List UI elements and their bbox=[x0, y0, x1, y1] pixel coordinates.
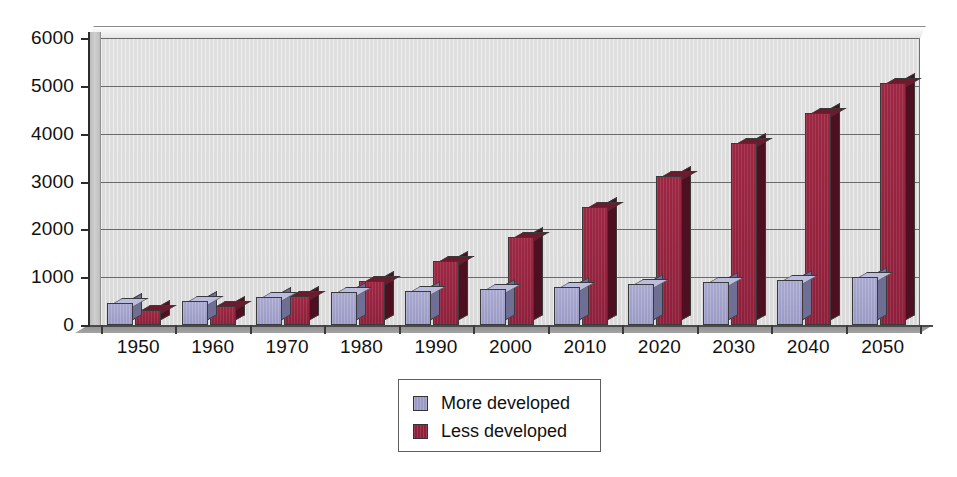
x-tick-mark bbox=[846, 325, 848, 334]
x-axis-label-2010: 2010 bbox=[548, 336, 622, 358]
x-axis-label-2050: 2050 bbox=[846, 336, 920, 358]
legend-swatch-more-developed-icon bbox=[413, 396, 428, 411]
bar-side-face bbox=[757, 133, 766, 320]
x-tick-mark bbox=[771, 325, 773, 334]
x-axis-label-1980: 1980 bbox=[324, 336, 398, 358]
x-axis-label-2000: 2000 bbox=[473, 336, 547, 358]
population-bar-chart: 6000500040003000200010000 19501960197019… bbox=[0, 0, 957, 477]
x-axis-label-1960: 1960 bbox=[175, 336, 249, 358]
bar-more-2040 bbox=[777, 280, 803, 325]
bar-more-2010 bbox=[554, 287, 580, 325]
bar-front-face bbox=[703, 282, 729, 325]
x-axis-label-1990: 1990 bbox=[399, 336, 473, 358]
bar-side-face bbox=[534, 227, 543, 320]
bar-more-1950 bbox=[107, 303, 133, 325]
bar-front-face bbox=[107, 303, 133, 325]
bar-more-2000 bbox=[480, 289, 506, 325]
bar-more-1990 bbox=[405, 291, 431, 325]
bar-front-face bbox=[256, 297, 282, 325]
chart-legend: More developed Less developed bbox=[398, 379, 601, 452]
x-axis-label-2040: 2040 bbox=[771, 336, 845, 358]
bar-front-face bbox=[554, 287, 580, 325]
bar-more-1960 bbox=[182, 301, 208, 325]
x-tick-mark bbox=[399, 325, 401, 334]
legend-label-less-developed: Less developed bbox=[441, 421, 567, 442]
x-tick-mark bbox=[101, 325, 103, 334]
bar-front-face bbox=[777, 280, 803, 325]
x-tick-mark bbox=[250, 325, 252, 334]
legend-swatch-less-developed-icon bbox=[413, 424, 428, 439]
x-axis-label-2030: 2030 bbox=[697, 336, 771, 358]
bar-front-face bbox=[852, 277, 878, 325]
bar-front-face bbox=[405, 291, 431, 325]
x-tick-mark bbox=[622, 325, 624, 334]
x-axis-label-1950: 1950 bbox=[101, 336, 175, 358]
legend-label-more-developed: More developed bbox=[441, 393, 570, 414]
bars-layer bbox=[0, 0, 957, 360]
bar-side-face bbox=[682, 166, 691, 320]
x-tick-mark bbox=[697, 325, 699, 334]
bar-front-face bbox=[331, 292, 357, 325]
bar-more-1970 bbox=[256, 297, 282, 325]
x-tick-mark bbox=[175, 325, 177, 334]
bar-front-face bbox=[628, 284, 654, 325]
x-tick-mark bbox=[920, 325, 922, 334]
x-tick-mark bbox=[548, 325, 550, 334]
x-tick-mark bbox=[473, 325, 475, 334]
legend-item-more-developed: More developed bbox=[413, 389, 600, 417]
bar-more-2020 bbox=[628, 284, 654, 325]
bar-side-face bbox=[608, 197, 617, 320]
x-axis-label-2020: 2020 bbox=[622, 336, 696, 358]
bar-front-face bbox=[480, 289, 506, 325]
plot-area: 6000500040003000200010000 19501960197019… bbox=[0, 0, 957, 360]
bar-more-2050 bbox=[852, 277, 878, 325]
bar-side-face bbox=[831, 103, 840, 320]
x-axis-label-1970: 1970 bbox=[250, 336, 324, 358]
legend-item-less-developed: Less developed bbox=[413, 417, 600, 445]
bar-more-1980 bbox=[331, 292, 357, 325]
x-tick-mark bbox=[324, 325, 326, 334]
bar-front-face bbox=[182, 301, 208, 325]
bar-side-face bbox=[906, 73, 915, 320]
bar-more-2030 bbox=[703, 282, 729, 325]
